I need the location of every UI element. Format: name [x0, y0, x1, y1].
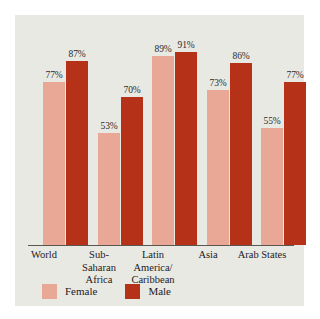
legend-swatch-female-icon — [42, 284, 57, 299]
bar-male[interactable] — [66, 61, 88, 245]
legend-item-female[interactable]: Female — [42, 284, 97, 299]
bar-male[interactable] — [284, 82, 306, 245]
legend-swatch-male-icon — [125, 284, 140, 299]
plot-area: 77% 87% 53% 70% 89% 91% 73% 86% — [28, 25, 292, 245]
category-line: Arab States — [223, 249, 301, 262]
bar-value-label: 55% — [257, 116, 287, 126]
legend-item-male[interactable]: Male — [125, 284, 171, 299]
bar-value-label: 53% — [94, 121, 124, 131]
bar-female[interactable] — [152, 56, 174, 245]
category-line: America/ — [114, 262, 192, 275]
bar-female[interactable] — [261, 128, 283, 245]
legend-label-female: Female — [65, 285, 97, 297]
bar-male[interactable] — [175, 52, 197, 245]
bar-value-label: 77% — [280, 70, 310, 80]
bar-value-label: 91% — [171, 40, 201, 50]
x-axis-line — [28, 245, 294, 246]
bar-value-label: 86% — [226, 51, 256, 61]
bar-male[interactable] — [121, 97, 143, 245]
bar-male[interactable] — [230, 63, 252, 245]
bar-value-label: 87% — [62, 49, 92, 59]
chart-legend: Female Male — [42, 281, 199, 301]
bar-female[interactable] — [98, 133, 120, 245]
chart-panel: 77% 87% 53% 70% 89% 91% 73% 86% — [15, 15, 304, 306]
category-label-arab-states: Arab States — [223, 249, 301, 262]
bar-value-label: 70% — [117, 85, 147, 95]
bar-female[interactable] — [43, 82, 65, 245]
legend-label-male: Male — [148, 285, 171, 297]
bar-value-label: 73% — [203, 78, 233, 88]
bar-female[interactable] — [207, 90, 229, 245]
bar-value-label: 77% — [39, 70, 69, 80]
